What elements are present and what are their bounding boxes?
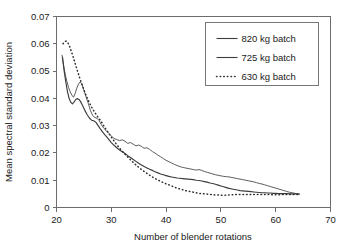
y-tick-label: 0.02 xyxy=(31,147,50,158)
chart-legend: 820 kg batch725 kg batch630 kg batch xyxy=(206,23,319,86)
y-axis-ticks: 00.010.020.030.040.050.060.07 xyxy=(31,11,57,213)
x-tick-label: 50 xyxy=(216,214,227,225)
y-tick-label: 0.04 xyxy=(31,93,50,104)
y-axis-title: Mean spectral standard deviation xyxy=(3,42,14,182)
y-tick-label: 0 xyxy=(44,202,49,213)
x-tick-label: 30 xyxy=(106,214,117,225)
y-tick-label: 0.07 xyxy=(31,11,50,22)
y-tick-label: 0.05 xyxy=(31,65,50,76)
x-axis-ticks: 203040506070 xyxy=(51,208,336,225)
chart-figure: 203040506070 00.010.020.030.040.050.060.… xyxy=(0,0,356,251)
line-chart: 203040506070 00.010.020.030.040.050.060.… xyxy=(0,0,356,251)
y-tick-label: 0.06 xyxy=(31,38,50,49)
x-tick-label: 20 xyxy=(51,214,62,225)
x-tick-label: 40 xyxy=(161,214,172,225)
legend-label-1: 820 kg batch xyxy=(242,33,296,44)
y-tick-label: 0.03 xyxy=(31,120,50,131)
y-tick-label: 0.01 xyxy=(31,175,50,186)
legend-label-2: 725 kg batch xyxy=(242,52,296,63)
x-axis-title: Number of blender rotations xyxy=(134,231,252,242)
x-tick-label: 70 xyxy=(325,214,336,225)
x-tick-label: 60 xyxy=(270,214,281,225)
legend-label-3: 630 kg batch xyxy=(242,71,296,82)
